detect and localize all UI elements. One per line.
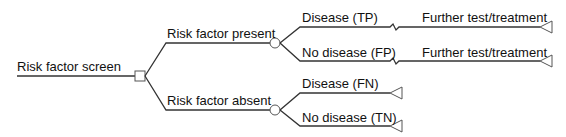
outcome-label-tp: Disease (TP) — [302, 11, 378, 25]
outcome-line-fn — [280, 93, 390, 110]
root-label: Risk factor screen — [17, 60, 121, 74]
outcome-line-tp — [280, 24, 540, 43]
terminal-node-fn-icon — [390, 87, 402, 99]
outcome-label-tn: No disease (TN) — [302, 111, 397, 125]
branch-label-present: Risk factor present — [167, 27, 275, 41]
outcome-label-fp: No disease (FP) — [302, 46, 396, 60]
next-label-fp: Further test/treatment — [422, 46, 547, 60]
chance-node-absent-icon — [270, 105, 280, 115]
decision-node-square-icon — [135, 71, 145, 81]
branch-line-present — [145, 43, 270, 76]
branch-label-absent: Risk factor absent — [167, 94, 271, 108]
next-label-tp: Further test/treatment — [422, 11, 547, 25]
outcome-label-fn: Disease (FN) — [302, 77, 379, 91]
